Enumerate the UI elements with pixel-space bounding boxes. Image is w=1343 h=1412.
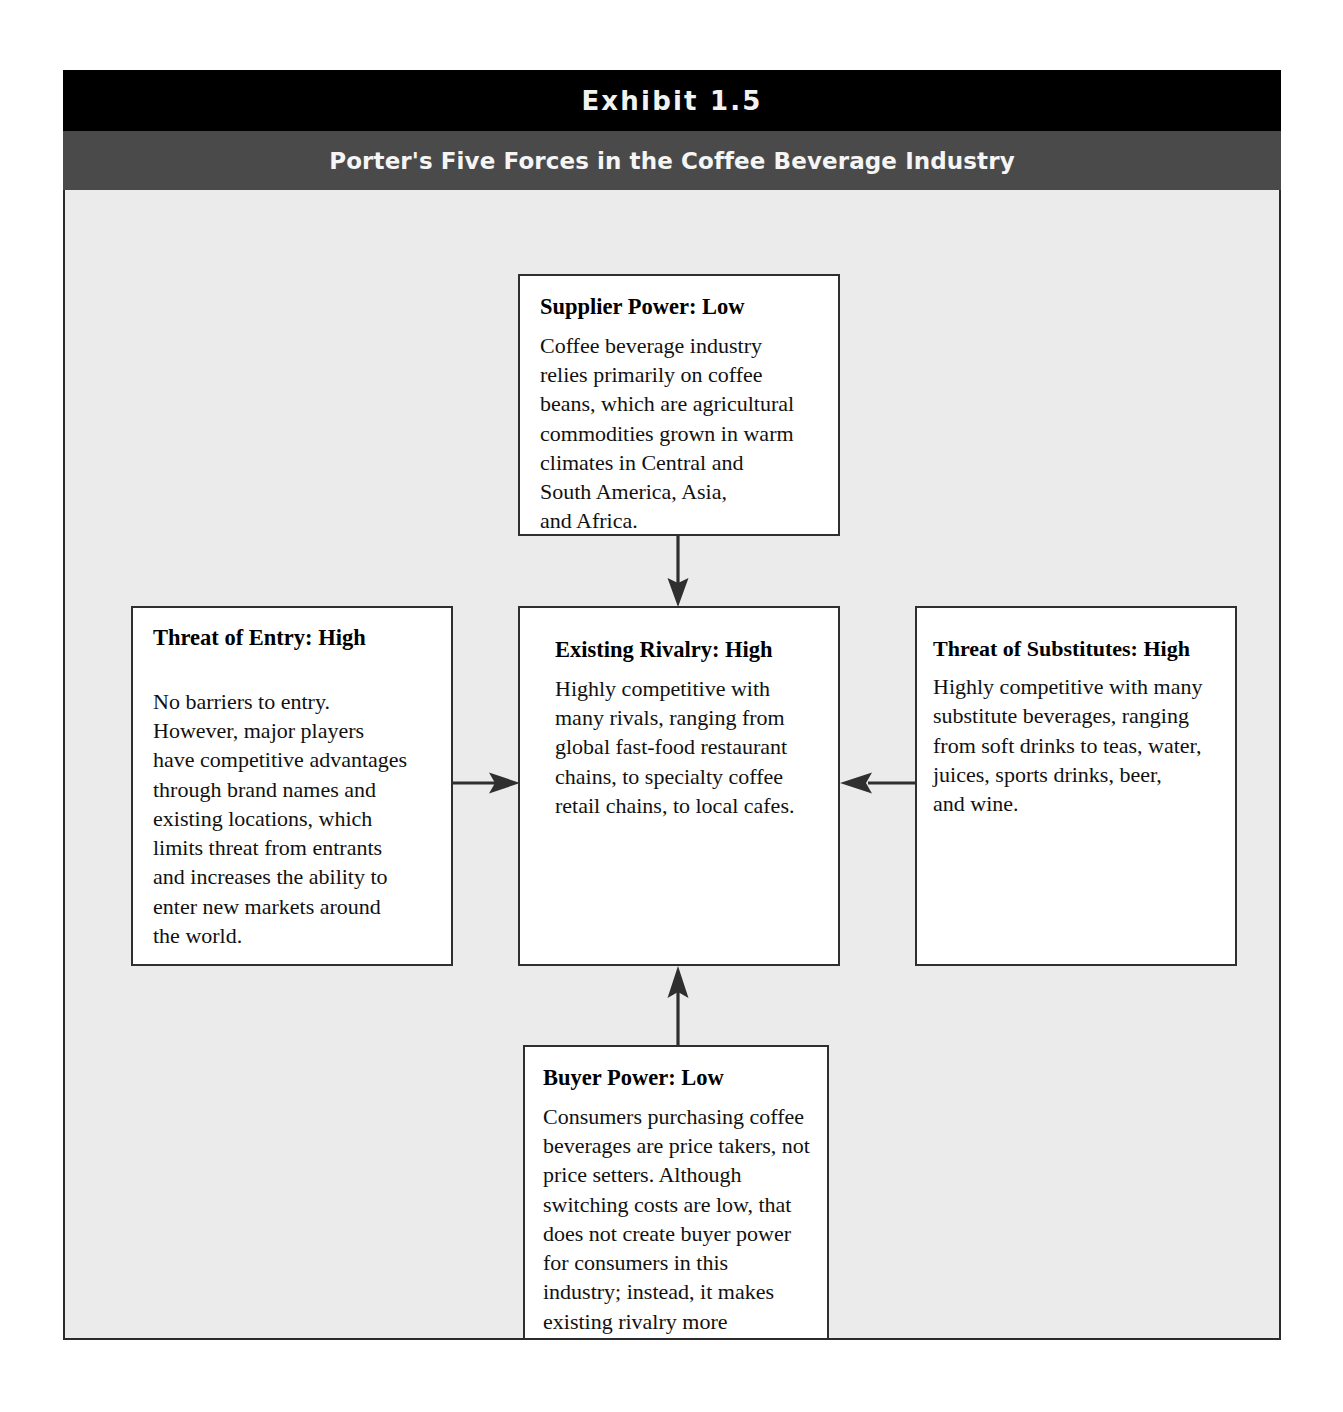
force-title-threat-of-entry: Threat of Entry: High — [153, 624, 437, 653]
force-body-existing-rivalry: Highly competitive with many rivals, ran… — [555, 674, 820, 820]
exhibit-number-label: Exhibit 1.5 — [63, 86, 1281, 116]
force-title-buyer-power: Buyer Power: Low — [543, 1064, 811, 1093]
exhibit-subtitle-bar: Porter's Five Forces in the Coffee Bever… — [63, 131, 1281, 190]
force-box-threat-of-entry-content: Threat of Entry: High No barriers to ent… — [133, 608, 451, 962]
force-body-supplier-power: Coffee beverage industry relies primaril… — [540, 331, 818, 536]
arrow-down-supplier-to-rivalry — [663, 534, 693, 608]
arrow-up-buyer-to-rivalry — [663, 964, 693, 1046]
five-forces-diagram: Supplier Power: Low Coffee beverage indu… — [63, 190, 1281, 1340]
force-box-supplier-power-content: Supplier Power: Low Coffee beverage indu… — [520, 276, 838, 548]
force-box-threat-of-entry: Threat of Entry: High No barriers to ent… — [131, 606, 453, 966]
force-box-supplier-power: Supplier Power: Low Coffee beverage indu… — [518, 274, 840, 536]
force-box-threat-of-substitutes-content: Threat of Substitutes: High Highly compe… — [917, 608, 1235, 830]
arrow-right-entry-to-rivalry — [451, 768, 521, 798]
exhibit-container: Exhibit 1.5 Porter's Five Forces in the … — [63, 70, 1281, 1340]
force-box-buyer-power: Buyer Power: Low Consumers purchasing co… — [523, 1045, 829, 1340]
force-box-buyer-power-content: Buyer Power: Low Consumers purchasing co… — [525, 1047, 827, 1340]
force-body-threat-of-entry: No barriers to entry. However, major pla… — [153, 687, 437, 950]
force-title-threat-of-substitutes: Threat of Substitutes: High — [933, 635, 1223, 663]
force-box-existing-rivalry-content: Existing Rivalry: High Highly competitiv… — [520, 608, 838, 832]
force-body-threat-of-substitutes: Highly competitive with many substitute … — [933, 672, 1223, 818]
force-box-existing-rivalry: Existing Rivalry: High Highly competitiv… — [518, 606, 840, 966]
force-title-existing-rivalry: Existing Rivalry: High — [555, 636, 820, 665]
exhibit-title-bar: Exhibit 1.5 — [63, 70, 1281, 131]
force-title-supplier-power: Supplier Power: Low — [540, 293, 818, 322]
arrow-left-substitutes-to-rivalry — [838, 768, 916, 798]
force-box-threat-of-substitutes: Threat of Substitutes: High Highly compe… — [915, 606, 1237, 966]
exhibit-subtitle: Porter's Five Forces in the Coffee Bever… — [63, 148, 1281, 174]
force-body-buyer-power: Consumers purchasing coffee beverages ar… — [543, 1102, 811, 1340]
